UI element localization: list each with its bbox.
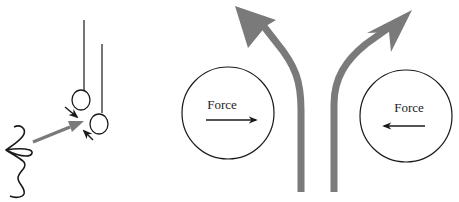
- circle-right: Force: [360, 70, 452, 162]
- bernoulli-diagram: Force Force: [0, 0, 459, 202]
- force-arrow-2: [84, 131, 93, 140]
- right-panel: Force Force: [182, 6, 452, 192]
- hanging-ball-1: [72, 90, 90, 110]
- left-stream: [235, 6, 301, 192]
- left-panel: [6, 20, 108, 197]
- circle-left: Force: [182, 67, 274, 159]
- force-label-left: Force: [207, 97, 237, 112]
- force-label-right: Force: [394, 100, 424, 115]
- mouth-profile: [6, 126, 32, 197]
- hanging-ball-2: [90, 114, 108, 134]
- air-blow-arrow: [33, 121, 84, 142]
